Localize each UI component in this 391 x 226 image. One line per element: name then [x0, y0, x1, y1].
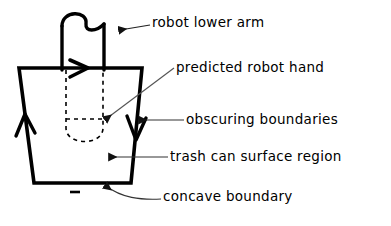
- trash-can-trapezoid: [19, 68, 142, 183]
- trash-can-outline: [19, 68, 142, 183]
- label-robot-lower-arm: robot lower arm: [152, 16, 264, 30]
- leader-robot-lower-arm: [120, 25, 150, 30]
- label-predicted-robot-hand: predicted robot hand: [176, 61, 324, 75]
- predicted-hand-dashed-region: [66, 70, 103, 142]
- dashed-hand-outline: [66, 70, 103, 142]
- label-obscuring-boundaries: obscuring boundaries: [186, 113, 338, 127]
- label-concave-boundary: concave boundary: [163, 190, 293, 204]
- leader-concave-boundary: [106, 186, 161, 199]
- label-trash-can-surface-region: trash can surface region: [170, 150, 342, 164]
- robot-lower-arm-shape: [62, 14, 104, 70]
- leader-lines: [106, 25, 184, 199]
- arm-fingertip-humps: [62, 14, 104, 30]
- boundary-arrow-markers: [16, 60, 146, 140]
- diagram-canvas: robot lower arm predicted robot hand obs…: [0, 0, 391, 226]
